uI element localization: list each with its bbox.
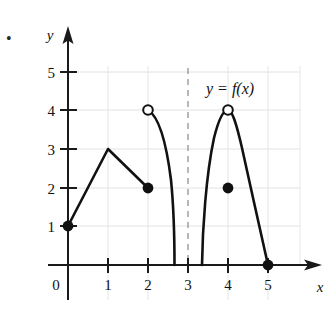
open-point-2-4 xyxy=(143,105,153,115)
x-axis xyxy=(48,260,322,271)
x-tick-label-4: 4 xyxy=(224,277,232,293)
x-tick-label-2: 2 xyxy=(144,277,152,293)
y-tick-label-4: 4 xyxy=(48,103,56,119)
x-axis-label: x xyxy=(316,279,324,295)
point-5-0 xyxy=(263,260,274,271)
open-point-4-4 xyxy=(223,105,233,115)
y-tick-label-5: 5 xyxy=(48,65,56,81)
y-tick-label-2: 2 xyxy=(48,181,56,197)
bullet-marker: • xyxy=(6,30,12,47)
x-tick-label-1: 1 xyxy=(104,277,112,293)
x-tick-label-5: 5 xyxy=(264,277,272,293)
x-tick-label-0: 0 xyxy=(52,277,60,293)
y-axis xyxy=(63,26,74,300)
function-label: y = f(x) xyxy=(204,80,254,98)
function-graph-figure: 5 4 3 2 1 0 1 2 3 4 5 y x xyxy=(0,0,336,321)
x-tick-label-3: 3 xyxy=(184,277,192,293)
point-4-2 xyxy=(223,183,234,194)
y-tick-label-1: 1 xyxy=(48,219,56,235)
y-axis-label: y xyxy=(45,27,54,43)
point-2-2 xyxy=(143,183,154,194)
graph-canvas: 5 4 3 2 1 0 1 2 3 4 5 y x xyxy=(0,0,336,321)
y-tick-labels: 5 4 3 2 1 xyxy=(48,65,56,235)
x-tick-labels: 0 1 2 3 4 5 xyxy=(52,277,272,293)
point-0-1 xyxy=(63,221,74,232)
y-tick-label-3: 3 xyxy=(48,142,56,158)
